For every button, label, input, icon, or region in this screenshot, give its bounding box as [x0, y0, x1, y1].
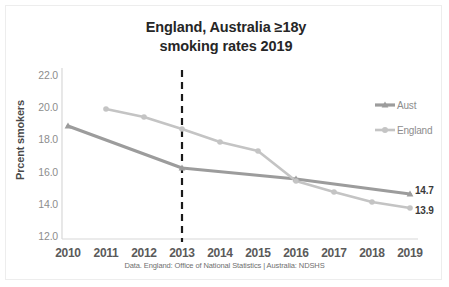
series-markers-england: [103, 106, 413, 211]
source-note: Data. England: Office of National Statis…: [6, 261, 443, 270]
legend-item-england[interactable]: England: [397, 125, 432, 136]
endpoint-label-aust: 14.7: [415, 185, 434, 196]
legend-item-aust[interactable]: Aust: [397, 100, 416, 111]
plot-svg: [6, 6, 443, 281]
legend-swatch-aust: [375, 102, 395, 108]
legend-swatch-england: [375, 127, 395, 133]
series-markers-aust: [65, 123, 414, 197]
chart-card: England, Australia ≥18y smoking rates 20…: [5, 5, 442, 280]
series-line-aust: [68, 126, 410, 194]
endpoint-label-england: 13.9: [415, 205, 434, 216]
